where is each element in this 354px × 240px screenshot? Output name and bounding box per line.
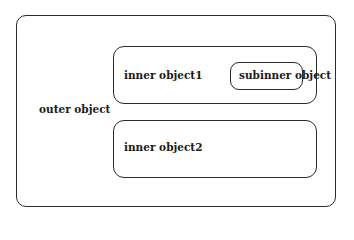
inner-object2-label: inner object2 [124,142,203,153]
inner-object1-label: inner object1 [124,70,203,81]
subinner-object-label: subinner object [239,70,331,81]
outer-object-label: outer object [39,104,110,115]
